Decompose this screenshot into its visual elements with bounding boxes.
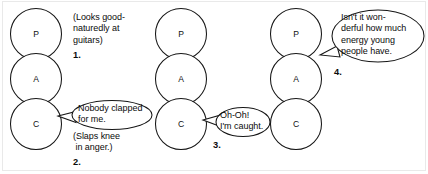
ego-state-label-child-3: C — [293, 119, 299, 129]
stage-direction-2-line-1: (Slaps knee — [73, 131, 120, 142]
pac-column-3: P A C — [271, 9, 322, 150]
speech-bubble-4-line-3: energy young — [341, 35, 395, 46]
speech-bubble-4-line-4: people have. — [341, 46, 392, 57]
stage-direction-1-line-2: naturedly at — [73, 23, 119, 34]
speech-bubble-2-line-2: for me. — [78, 114, 106, 125]
speech-bubble-4-line-2: derful how much — [341, 23, 406, 34]
ego-state-label-adult-3: A — [293, 74, 299, 84]
step-number-3: 3. — [213, 140, 221, 150]
step-number-4: 4. — [334, 67, 342, 77]
ego-state-label-child-2: C — [178, 119, 184, 129]
speech-bubble-4-line-1: Isn't it won- — [341, 12, 386, 23]
step-number-1: 1. — [73, 50, 81, 60]
pac-column-2: P A C — [156, 9, 207, 150]
ego-state-label-parent-2: P — [178, 29, 184, 39]
diagram-canvas: P A C P A C P A C — [0, 0, 428, 174]
speech-bubble-2-line-1: Nobody clapped — [78, 103, 142, 114]
ego-state-label-child-1: C — [33, 119, 39, 129]
pac-column-1: P A C — [11, 9, 62, 150]
stage-direction-1-line-1: (Looks good- — [73, 12, 125, 23]
ego-state-label-parent-3: P — [293, 29, 299, 39]
speech-bubble-3-line-1: Oh-Oh! — [220, 110, 249, 121]
ego-state-label-adult-2: A — [178, 74, 184, 84]
speech-bubble-3-line-2: I'm caught. — [220, 121, 263, 132]
ego-state-label-adult-1: A — [33, 74, 39, 84]
ego-state-label-parent-1: P — [33, 29, 39, 39]
step-number-2: 2. — [73, 157, 81, 167]
stage-direction-1-line-3: guitars) — [73, 35, 103, 46]
stage-direction-2-line-2: in anger.) — [73, 142, 112, 153]
